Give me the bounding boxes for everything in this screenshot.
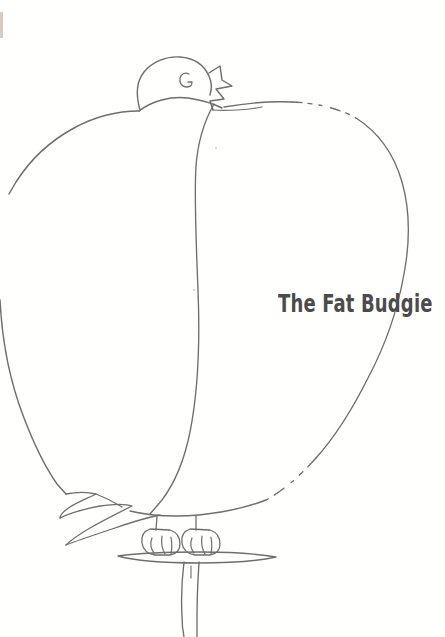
wing-division-line	[150, 104, 214, 514]
left-leg	[156, 516, 157, 530]
wing-outer-arc-top	[224, 102, 292, 107]
wing-outer-arc-bottom-dashed	[266, 458, 316, 500]
tail-feather-middle	[60, 505, 132, 546]
left-foot	[142, 529, 180, 555]
tail-feather-upper	[60, 493, 96, 519]
perch-bar	[118, 552, 276, 563]
right-foot	[182, 529, 220, 555]
eye-g-glyph	[180, 73, 192, 87]
perch-post-left	[182, 562, 184, 637]
body-outline-left-lower	[0, 300, 66, 494]
book-cover-page: The Fat Budgie	[0, 0, 445, 637]
budgie-line-drawing	[0, 0, 445, 637]
body-outline-left	[9, 111, 139, 194]
paper-edge-speck	[0, 12, 3, 38]
left-foot-claw-3	[171, 537, 172, 554]
wing-outer-arc-top-dashed	[292, 102, 356, 118]
tail-feather-lower	[66, 515, 160, 545]
left-foot-claw-1	[151, 538, 154, 553]
right-foot-claw-1	[191, 538, 194, 553]
perch-post-right	[197, 562, 199, 637]
right-foot-claw-2	[202, 536, 205, 554]
paper-speck-2	[193, 289, 194, 290]
head-outline	[137, 57, 211, 110]
left-foot-claw-2	[162, 536, 165, 554]
body-back-arc	[139, 98, 222, 111]
paper-speck-1	[215, 147, 216, 148]
wing-outer-arc-right	[316, 118, 408, 458]
